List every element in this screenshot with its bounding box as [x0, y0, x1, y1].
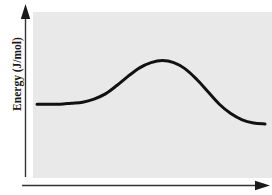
energy-profile-curve	[37, 61, 265, 124]
chart-canvas	[0, 0, 272, 195]
up-arrow-icon	[21, 4, 30, 19]
y-axis-label: Energy (J/mol)	[11, 19, 23, 129]
right-arrow-icon	[255, 181, 270, 191]
reaction-energy-diagram: Energy (J/mol)	[0, 0, 272, 195]
